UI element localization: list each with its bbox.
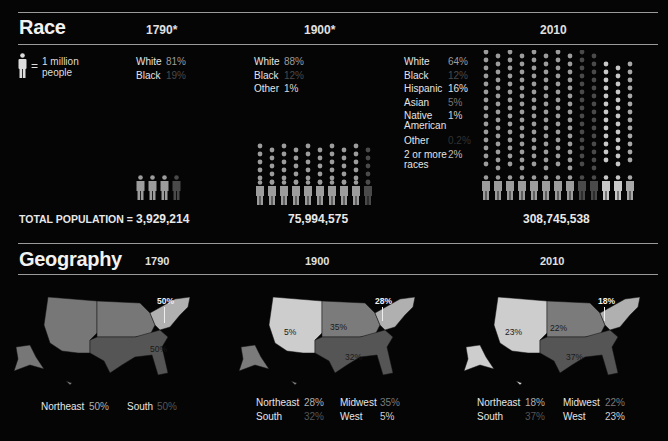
map-region	[239, 345, 269, 371]
person-head-icon	[496, 126, 501, 131]
geo-legend-pct: 32%	[304, 410, 340, 424]
person-icon	[173, 175, 181, 200]
person-head-icon	[544, 126, 549, 131]
person-head-icon	[532, 154, 537, 159]
person-head-icon	[520, 118, 525, 123]
person-head-icon	[592, 110, 597, 115]
person-head-icon	[508, 146, 513, 151]
us-map-1900	[225, 285, 425, 395]
person-head-icon	[568, 86, 573, 91]
person-icon	[280, 180, 288, 205]
person-head-icon	[496, 118, 501, 123]
geo-legend-label: Midwest	[563, 396, 605, 410]
total-population-label: TOTAL POPULATION =	[19, 213, 133, 225]
person-head-icon	[556, 138, 561, 143]
us-map-2010	[450, 285, 650, 395]
person-head-icon	[520, 102, 525, 107]
person-head-icon	[508, 138, 513, 143]
person-head-icon	[592, 166, 597, 171]
person-head-icon	[616, 66, 621, 71]
geo-year-1790: 1790	[145, 255, 169, 267]
race-label: Other	[404, 134, 448, 148]
map-region	[516, 381, 522, 385]
person-head-icon	[366, 172, 371, 177]
person-head-icon	[580, 90, 585, 95]
person-head-icon	[592, 70, 597, 75]
person-icon	[506, 175, 514, 200]
person-head-icon	[496, 78, 501, 83]
person-head-icon	[556, 122, 561, 127]
person-head-icon	[294, 148, 299, 153]
person-icon	[18, 53, 27, 79]
race-list-1900: White88% Black12% Other1%	[254, 55, 304, 96]
person-head-icon	[604, 102, 609, 107]
pictogram-1900	[254, 140, 379, 205]
person-head-icon	[568, 94, 573, 99]
geo-legend-pct: 18%	[525, 396, 563, 410]
race-row: Other1%	[254, 82, 304, 96]
person-head-icon	[604, 134, 609, 139]
geo-legend-pct: 50%	[89, 400, 127, 414]
person-head-icon	[556, 130, 561, 135]
person-head-icon	[318, 148, 323, 153]
person-head-icon	[258, 152, 263, 157]
person-head-icon	[544, 118, 549, 123]
person-head-icon	[366, 148, 371, 153]
person-head-icon	[342, 156, 347, 161]
person-head-icon	[532, 90, 537, 95]
race-row: Black19%	[136, 69, 186, 83]
person-head-icon	[294, 164, 299, 169]
person-icon	[626, 175, 634, 200]
person-head-icon	[484, 106, 489, 111]
race-label: Native American	[404, 111, 448, 134]
geo-legend-label: Northeast	[256, 396, 304, 410]
person-head-icon	[544, 134, 549, 139]
race-pct: 19%	[166, 69, 186, 83]
person-head-icon	[556, 114, 561, 119]
race-label: White	[254, 55, 284, 69]
person-head-icon	[496, 62, 501, 67]
person-icon	[292, 180, 300, 205]
person-head-icon	[580, 98, 585, 103]
person-head-icon	[318, 156, 323, 161]
person-head-icon	[628, 94, 633, 99]
person-head-icon	[496, 110, 501, 115]
person-head-icon	[604, 118, 609, 123]
person-head-icon	[604, 94, 609, 99]
person-head-icon	[568, 54, 573, 59]
person-head-icon	[496, 158, 501, 163]
person-head-icon	[496, 134, 501, 139]
person-head-icon	[592, 62, 597, 67]
person-head-icon	[544, 70, 549, 75]
race-list-2010: White64% Black12% Hispanic16% Asian5% Na…	[404, 55, 471, 170]
person-head-icon	[330, 176, 335, 181]
geo-legend-label: Northeast	[41, 400, 89, 414]
person-head-icon	[484, 146, 489, 151]
geo-legend-2010: Northeast 18% Midwest 22% South 37% West…	[477, 396, 625, 424]
person-head-icon	[520, 62, 525, 67]
person-head-icon	[568, 70, 573, 75]
person-head-icon	[306, 176, 311, 181]
legend-key: = 1 million people	[18, 53, 79, 79]
person-head-icon	[544, 102, 549, 107]
person-head-icon	[544, 94, 549, 99]
race-row: White88%	[254, 55, 304, 69]
person-head-icon	[484, 98, 489, 103]
person-head-icon	[520, 142, 525, 147]
person-head-icon	[592, 118, 597, 123]
person-head-icon	[592, 150, 597, 155]
person-head-icon	[616, 154, 621, 159]
person-head-icon	[520, 78, 525, 83]
person-head-icon	[556, 146, 561, 151]
person-head-icon	[616, 74, 621, 79]
person-head-icon	[580, 106, 585, 111]
race-label: Black	[254, 69, 284, 83]
person-head-icon	[544, 78, 549, 83]
person-head-icon	[532, 106, 537, 111]
person-head-icon	[556, 90, 561, 95]
person-head-icon	[592, 54, 597, 59]
person-head-icon	[556, 98, 561, 103]
person-icon	[304, 180, 312, 205]
person-head-icon	[580, 138, 585, 143]
geo-legend-label: South	[256, 410, 304, 424]
